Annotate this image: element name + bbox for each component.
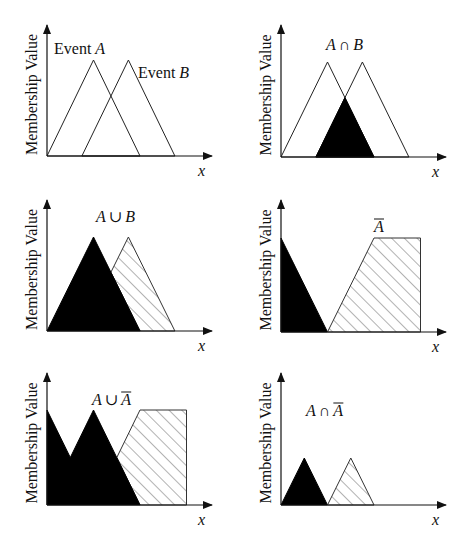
label-event-b: Event B (138, 64, 189, 81)
panel-intersection: Membership ValuexA∩B (257, 25, 446, 180)
x-axis-label: x (431, 511, 439, 528)
x-axis-label: x (197, 337, 205, 354)
y-axis-label: Membership Value (23, 382, 41, 503)
y-axis-label: Membership Value (257, 209, 275, 330)
panel-title: A∪A (91, 391, 131, 408)
y-axis-label: Membership Value (257, 34, 275, 155)
panel-title: A (373, 218, 384, 235)
y-axis-label: Membership Value (23, 34, 41, 155)
a-and-b-shape (316, 98, 374, 157)
x-axis-label: x (197, 511, 205, 528)
panel-complement: Membership ValuexA (257, 200, 446, 355)
event-a-shape (47, 60, 140, 156)
panel-title: A∩B (325, 36, 363, 53)
panel-intersection-complement: Membership ValuexA∩A (257, 373, 446, 528)
panel-events: Membership ValuexEvent AEvent B (23, 25, 212, 179)
x-axis-label: x (431, 338, 439, 355)
complement-right-shape (328, 238, 421, 332)
x-axis-label: x (431, 163, 439, 180)
left-peak-shape (281, 458, 328, 505)
panel-union: Membership ValuexA∪B (23, 200, 212, 354)
x-axis-label: x (197, 162, 205, 179)
fuzzy-set-figure: Membership ValuexEvent AEvent BMembershi… (0, 0, 464, 542)
panel-union-complement: Membership ValuexA∪A (23, 373, 212, 528)
panel-title: A∪B (95, 208, 135, 225)
y-axis-label: Membership Value (23, 209, 41, 330)
right-peak-shape (328, 458, 375, 505)
panel-title: A∩A (305, 402, 343, 419)
y-axis-label: Membership Value (257, 382, 275, 503)
label-event-a: Event A (54, 40, 105, 57)
complement-left-shape (281, 238, 328, 332)
